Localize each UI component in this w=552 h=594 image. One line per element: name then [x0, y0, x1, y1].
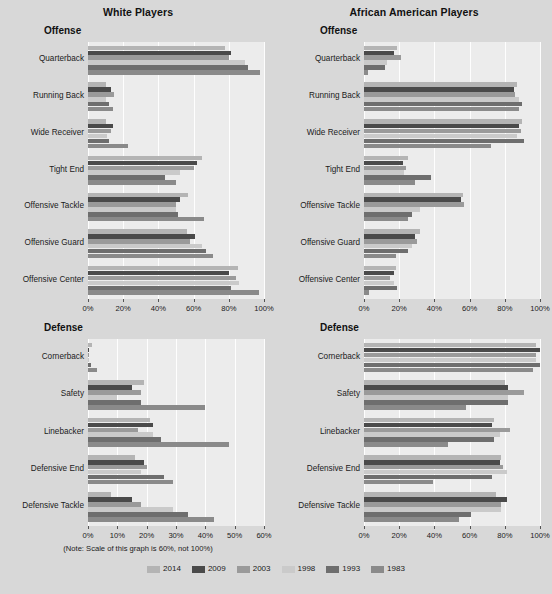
bar-1983: [364, 480, 433, 485]
bar-1993: [88, 65, 248, 69]
tick-mark: [117, 526, 118, 529]
bar-2009: [88, 385, 132, 390]
bar-1998: [364, 432, 500, 437]
tick-mark: [205, 526, 206, 529]
bar-2003: [88, 390, 141, 395]
bar-1993: [364, 363, 540, 368]
x-axis-tick-label: 0%: [359, 531, 370, 540]
bar-group: [364, 418, 540, 448]
bar-1993: [364, 212, 412, 216]
bar-1998: [88, 207, 176, 211]
x-axis-tick-label: 20%: [392, 304, 407, 313]
bar-2003: [88, 428, 138, 433]
bar-2009: [364, 460, 500, 465]
legend-item-2009[interactable]: 2009: [192, 565, 226, 573]
legend-item-2014[interactable]: 2014: [147, 565, 181, 573]
category-label: Defensive End: [31, 465, 84, 473]
x-axis-tick-label: 40%: [427, 531, 442, 540]
gridline: [264, 339, 265, 526]
x-axis-tick-label: 0%: [83, 531, 94, 540]
bar-2014: [88, 193, 188, 197]
bar-2014: [364, 492, 496, 497]
bar-1993: [88, 512, 188, 517]
legend-swatch-icon: [326, 566, 339, 573]
bar-group: [88, 82, 264, 111]
tick-mark: [123, 299, 124, 302]
tick-mark: [364, 299, 365, 302]
tick-mark: [540, 299, 541, 302]
bar-1993: [88, 212, 178, 216]
bar-2014: [88, 82, 106, 86]
panel-title-white-players: White Players: [0, 6, 276, 18]
tick-mark: [229, 299, 230, 302]
bar-2003: [88, 55, 229, 59]
bar-2014: [88, 46, 225, 50]
bar-1993: [364, 437, 494, 442]
tick-mark: [176, 526, 177, 529]
bar-group: [88, 343, 264, 373]
legend-item-1983[interactable]: 1983: [371, 565, 405, 573]
tick-mark: [434, 299, 435, 302]
tick-mark: [470, 526, 471, 529]
x-axis-tick-label: 80%: [221, 304, 236, 313]
bar-group: [88, 455, 264, 485]
section-label-offense-african-american: Offense: [320, 25, 357, 36]
bar-group: [88, 193, 264, 222]
bar-2014: [364, 119, 522, 123]
bar-group: [364, 46, 540, 75]
legend-item-1998[interactable]: 1998: [282, 565, 316, 573]
bar-1993: [88, 249, 206, 253]
legend-swatch-icon: [371, 566, 384, 573]
bar-1998: [88, 134, 107, 138]
bar-1983: [364, 254, 396, 258]
section-label-defense-white: Defense: [44, 322, 83, 333]
legend-item-1993[interactable]: 1993: [326, 565, 360, 573]
category-label: Linebacker: [320, 428, 360, 436]
x-axis-tick-label: 20%: [139, 531, 154, 540]
bar-1993: [88, 286, 231, 290]
x-axis-tick-label: 0%: [359, 304, 370, 313]
bar-group: [364, 156, 540, 185]
bar-2003: [88, 502, 141, 507]
bar-1983: [88, 254, 213, 258]
x-axis-tick-label: 60%: [462, 304, 477, 313]
bar-1983: [88, 180, 176, 184]
bar-1993: [88, 400, 141, 405]
bar-1983: [88, 405, 205, 410]
category-label: Offensive Center: [299, 276, 360, 284]
bar-1983: [88, 144, 128, 148]
bar-2014: [88, 156, 202, 160]
bar-1998: [88, 432, 153, 437]
bar-2003: [364, 276, 390, 280]
bar-1983: [364, 442, 448, 447]
category-label: Offensive Center: [23, 276, 84, 284]
bar-2009: [88, 497, 132, 502]
category-label: Quarterback: [39, 55, 84, 63]
bar-2003: [364, 502, 501, 507]
bar-1983: [88, 442, 229, 447]
bar-1998: [364, 170, 404, 174]
bar-2009: [364, 271, 394, 275]
category-label: Defensive Tackle: [22, 502, 84, 510]
bar-1998: [364, 358, 536, 363]
legend-item-2003[interactable]: 2003: [237, 565, 271, 573]
tick-mark: [470, 299, 471, 302]
panel-offense-white: White Players Offense QuarterbackRunning…: [0, 6, 276, 314]
bar-2014: [88, 266, 238, 270]
x-axis-tick-label: 100%: [530, 531, 549, 540]
bar-1983: [364, 107, 519, 111]
category-label: Offensive Tackle: [300, 202, 360, 210]
panel-title-african-american-players: African American Players: [276, 6, 552, 18]
tick-mark: [399, 299, 400, 302]
bar-1993: [364, 175, 431, 179]
bar-2014: [364, 82, 517, 86]
bar-2003: [364, 390, 524, 395]
bar-1998: [88, 358, 89, 363]
x-axis-tick-label: 20%: [392, 531, 407, 540]
category-label: Linebacker: [44, 428, 84, 436]
bar-2009: [364, 234, 415, 238]
legend-swatch-icon: [237, 566, 250, 573]
bar-2009: [88, 87, 111, 91]
panel-defense-african-american: Defense CornerbackSafetyLinebackerDefens…: [276, 318, 552, 558]
bar-group: [88, 229, 264, 258]
